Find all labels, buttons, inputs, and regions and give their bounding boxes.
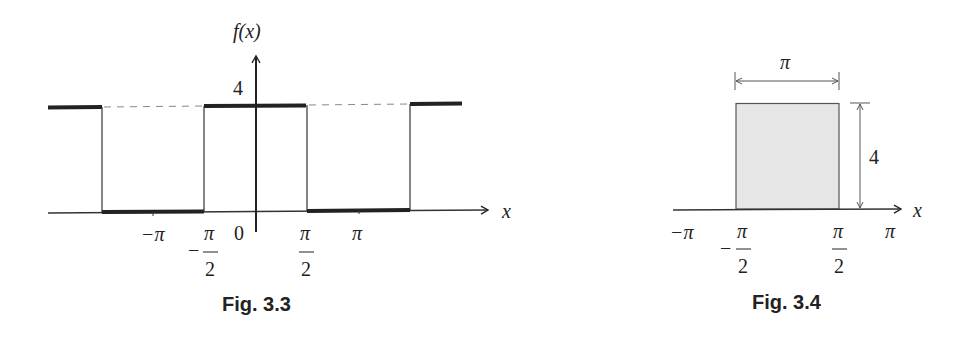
wave-high-right (410, 104, 462, 105)
x-axis-label: x (501, 200, 511, 222)
tick-label-half-pi-num: π (833, 220, 844, 242)
shaded-rectangle (736, 104, 839, 210)
y-tick-4: 4 (233, 77, 243, 99)
dashed-level-line-right (309, 104, 410, 105)
wave-high-center (204, 106, 306, 107)
tick-label-neg-half-pi-sign: − (188, 239, 199, 261)
y-axis-label: f(x) (233, 20, 261, 43)
x-axis (673, 209, 901, 210)
tick-label-neg-half-pi-den: 2 (205, 258, 215, 280)
fig-3-4: π 4 x −π − π 2 π 2 π Fig. 3.4 (670, 51, 922, 313)
tick-label-pi: π (352, 222, 363, 244)
height-label: 4 (869, 146, 879, 168)
figure-caption: Fig. 3.3 (222, 293, 291, 315)
tick-label-neg-pi: −π (670, 221, 694, 243)
tick-label-neg-pi: −π (141, 223, 165, 245)
tick-label-pi: π (885, 220, 896, 242)
wave-low-left (102, 212, 204, 213)
fig-3-3: f(x) 4 0 x −π − π 2 π 2 π Fig. 3.3 (48, 20, 511, 315)
tick-label-half-pi-den: 2 (834, 255, 844, 277)
wave-high-left (48, 107, 102, 108)
tick-label-neg-half-pi-num: π (737, 220, 748, 242)
tick-label-half-pi-num: π (300, 222, 311, 244)
width-label: π (780, 51, 791, 73)
origin-label: 0 (234, 222, 244, 244)
x-axis-label: x (912, 199, 922, 221)
tick-label-neg-half-pi-num: π (204, 222, 215, 244)
figure-caption: Fig. 3.4 (752, 291, 822, 313)
tick-label-half-pi-den: 2 (301, 258, 311, 280)
tick-label-neg-half-pi-sign: − (720, 237, 731, 259)
figure-canvas: f(x) 4 0 x −π − π 2 π 2 π Fig. 3.3 π 4 x… (0, 0, 976, 342)
dashed-level-line-left (104, 106, 204, 107)
tick-label-neg-half-pi-den: 2 (738, 255, 748, 277)
